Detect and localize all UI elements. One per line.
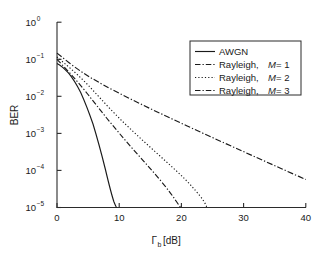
x-axis-title-unit: [dB] [163,235,181,246]
y-tick-mantissa: 10 [25,128,36,139]
y-tick-exponent: −5 [37,200,45,207]
y-tick-mantissa: 10 [25,165,36,176]
y-axis-title: BER [9,105,20,126]
y-tick-mantissa: 10 [25,91,36,102]
legend-label-m1-tail: = 1 [276,59,289,70]
legend-label-m3-base: Rayleigh, [219,85,259,96]
legend-label-m3-italic: M [268,85,276,96]
x-tick-label-40: 40 [301,212,312,223]
legend-label-m1-base: Rayleigh, [219,59,259,70]
y-tick-mantissa: 10 [25,54,36,65]
x-tick-label-0: 0 [54,212,59,223]
x-tick-label-10: 10 [114,212,125,223]
y-tick-exponent: −1 [37,52,45,59]
y-tick-mantissa: 10 [25,202,36,213]
ber-vs-gamma-chart: 10 0 10 −1 10 −2 10 −3 10 −4 10 −5 0 10 … [0,0,325,260]
figure-container: 10 0 10 −1 10 −2 10 −3 10 −4 10 −5 0 10 … [0,0,325,260]
x-tick-label-20: 20 [176,212,187,223]
legend-label-m2-base: Rayleigh, [219,72,259,83]
y-tick-exponent: −2 [37,89,45,96]
x-axis-title-subscript: b [158,241,162,248]
legend-label-m3-tail: = 3 [276,85,289,96]
legend-label-m1-italic: M [268,59,276,70]
chart-legend[interactable]: AWGN Rayleigh, M = 1 Rayleigh, M = 2 Ray… [190,41,301,96]
x-tick-label-30: 30 [238,212,249,223]
chart-background [0,0,325,260]
y-tick-mantissa: 10 [25,17,36,28]
legend-label-m2-italic: M [268,72,276,83]
y-tick-exponent: −4 [37,163,45,170]
legend-label-m2-tail: = 2 [276,72,289,83]
y-tick-exponent: 0 [37,15,41,22]
legend-label-awgn: AWGN [219,46,248,57]
y-tick-exponent: −3 [37,126,45,133]
